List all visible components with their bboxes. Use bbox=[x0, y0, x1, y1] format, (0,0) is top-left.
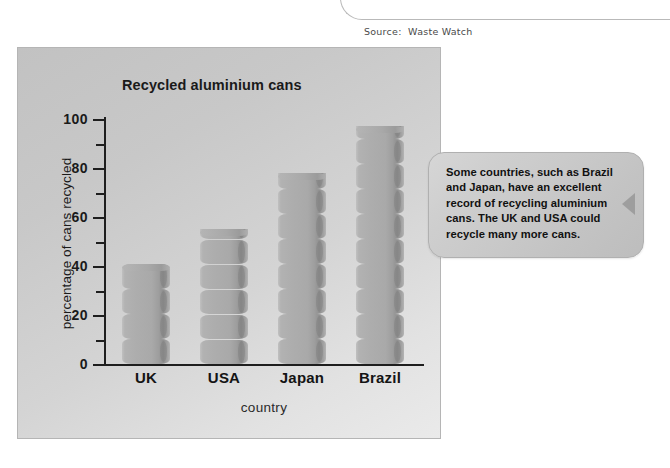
can-top-rim bbox=[356, 126, 404, 133]
y-tick-major-0 bbox=[93, 364, 105, 366]
x-axis-line bbox=[104, 364, 424, 366]
bar-uk[interactable] bbox=[122, 264, 170, 364]
source-caption: Source: Waste Watch bbox=[364, 26, 473, 37]
can-segment bbox=[356, 264, 404, 289]
y-tick-major-100 bbox=[93, 119, 105, 121]
y-tick-major-80 bbox=[93, 168, 105, 170]
can-segment bbox=[356, 139, 404, 164]
can-top-rim bbox=[278, 173, 326, 180]
plot-area: 0 20 40 60 80 100 percentage of cans rec… bbox=[18, 48, 440, 438]
y-tick-minor-90 bbox=[96, 144, 105, 146]
y-tick-minor-70 bbox=[96, 193, 105, 195]
can-segment bbox=[200, 340, 248, 365]
can-top-rim bbox=[200, 229, 248, 236]
bar-usa[interactable] bbox=[200, 229, 248, 364]
bar-japan[interactable] bbox=[278, 173, 326, 364]
y-tick-minor-50 bbox=[96, 242, 105, 244]
can-segment bbox=[278, 214, 326, 239]
can-segment bbox=[278, 339, 326, 364]
can-stack bbox=[200, 229, 248, 364]
y-tick-label-100: 100 bbox=[54, 111, 88, 127]
can-stack bbox=[356, 126, 404, 364]
y-tick-major-40 bbox=[93, 266, 105, 268]
x-axis-title: country bbox=[104, 400, 424, 415]
y-tick-major-60 bbox=[93, 217, 105, 219]
can-segment bbox=[356, 189, 404, 214]
y-axis-title: percentage of cans recycled bbox=[59, 149, 74, 339]
callout-tail-icon bbox=[622, 193, 635, 215]
annotation-callout: Some countries, such as Brazil and Japan… bbox=[428, 152, 644, 258]
can-segment bbox=[122, 339, 170, 364]
top-border-decoration bbox=[340, 0, 670, 20]
can-segment bbox=[278, 264, 326, 289]
can-segment bbox=[200, 265, 248, 290]
y-tick-label-0: 0 bbox=[54, 356, 88, 372]
x-tick-label-usa: USA bbox=[184, 369, 264, 386]
y-tick-minor-30 bbox=[96, 291, 105, 293]
can-segment bbox=[356, 289, 404, 314]
y-tick-minor-10 bbox=[96, 340, 105, 342]
can-segment bbox=[278, 239, 326, 264]
can-segment bbox=[356, 214, 404, 239]
x-tick-label-brazil: Brazil bbox=[340, 369, 420, 386]
y-tick-major-20 bbox=[93, 315, 105, 317]
can-segment bbox=[278, 189, 326, 214]
can-segment bbox=[278, 314, 326, 339]
can-top-rim bbox=[122, 264, 170, 271]
can-segment bbox=[122, 289, 170, 314]
can-segment bbox=[200, 240, 248, 265]
can-segment bbox=[200, 315, 248, 340]
x-tick-label-japan: Japan bbox=[262, 369, 342, 386]
can-segment bbox=[122, 314, 170, 339]
chart-panel: Recycled aluminium cans 0 20 40 60 80 10… bbox=[17, 47, 441, 439]
x-tick-label-uk: UK bbox=[106, 369, 186, 386]
annotation-callout-text: Some countries, such as Brazil and Japan… bbox=[446, 165, 626, 242]
bar-brazil[interactable] bbox=[356, 126, 404, 364]
can-segment bbox=[356, 314, 404, 339]
can-stack bbox=[122, 264, 170, 364]
can-segment bbox=[356, 339, 404, 364]
can-segment bbox=[356, 239, 404, 264]
can-segment bbox=[200, 290, 248, 315]
can-segment bbox=[278, 289, 326, 314]
can-stack bbox=[278, 173, 326, 364]
can-segment bbox=[356, 164, 404, 189]
